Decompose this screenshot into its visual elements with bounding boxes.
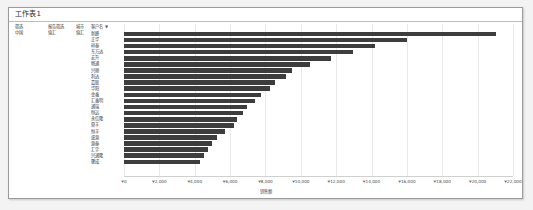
x-axis-tick-label: ¥6,000 — [223, 178, 238, 186]
bar-track — [124, 135, 513, 140]
bar[interactable] — [124, 32, 496, 37]
pivot-filter-2[interactable]: 城市 值汇 — [76, 24, 84, 35]
bar-track — [124, 153, 513, 158]
bar[interactable] — [124, 62, 310, 67]
page-title: 工作表1 — [15, 9, 41, 20]
pivot-filter-1-value[interactable]: 值汇 — [48, 30, 64, 36]
bar-track — [124, 105, 513, 110]
pivot-filter-1[interactable]: 报告筛选 值汇 — [48, 24, 64, 35]
worksheet-frame: 工作表1 筛选 中国 报告筛选 值汇 城市 值汇 客户名▼ 新峰正华祥泰东方达宏… — [8, 7, 523, 199]
bar-track — [124, 86, 513, 91]
bar-track — [124, 141, 513, 146]
bar-track — [124, 99, 513, 104]
bar-track — [124, 147, 513, 152]
x-axis-tick-label: ¥8,000 — [258, 178, 273, 186]
x-axis-title: 销售额 — [9, 188, 522, 195]
pivot-filter-0-label: 筛选 — [15, 24, 23, 30]
x-axis-tick-label: ¥18,000 — [434, 178, 451, 186]
bar[interactable] — [124, 50, 353, 55]
bar-rows: 新峰正华祥泰东方达宏升畅通兴顺利达嘉联华阳金鑫汇鑫明通瑞恒远永信隆鼎丰恒丰盛源源… — [91, 31, 516, 176]
bar[interactable] — [124, 129, 225, 134]
bar[interactable] — [124, 123, 234, 128]
x-axis-tick-label: ¥2,000 — [152, 178, 167, 186]
bar[interactable] — [124, 56, 331, 61]
bar[interactable] — [124, 74, 286, 79]
bar[interactable] — [124, 80, 275, 85]
pivot-filter-2-label: 城市 — [76, 24, 84, 30]
bar[interactable] — [124, 44, 375, 49]
bar[interactable] — [124, 135, 217, 140]
bar[interactable] — [124, 105, 247, 110]
bar-track — [124, 44, 513, 49]
bar-row: 聚成 — [91, 159, 516, 165]
bar-track — [124, 117, 513, 122]
bar[interactable] — [124, 99, 255, 104]
bar[interactable] — [124, 38, 407, 43]
bar-track — [124, 68, 513, 73]
worksheet-title-bar: 工作表1 — [9, 8, 522, 22]
category-field-header[interactable]: 客户名▼ — [91, 24, 108, 30]
bar[interactable] — [124, 153, 204, 158]
x-axis-tick-label: ¥12,000 — [328, 178, 345, 186]
pivot-filter-2-value[interactable]: 值汇 — [76, 30, 84, 36]
bar-track — [124, 129, 513, 134]
bar-track — [124, 56, 513, 61]
chevron-down-icon[interactable]: ▼ — [105, 24, 108, 30]
bar[interactable] — [124, 86, 270, 91]
pivot-filter-0[interactable]: 筛选 中国 — [15, 24, 23, 35]
bar[interactable] — [124, 93, 261, 98]
bar-track — [124, 111, 513, 116]
bar[interactable] — [124, 68, 292, 73]
pivot-filter-0-value[interactable]: 中国 — [15, 30, 23, 36]
x-axis-tick-label: ¥22,000 — [504, 178, 521, 186]
pivot-filter-1-label: 报告筛选 — [48, 24, 64, 30]
bar-track — [124, 38, 513, 43]
x-axis-tick-label: ¥0 — [121, 178, 126, 186]
bar-track — [124, 93, 513, 98]
bar-track — [124, 32, 513, 37]
bar[interactable] — [124, 160, 200, 165]
x-axis-tick-label: ¥10,000 — [292, 178, 309, 186]
bar-track — [124, 74, 513, 79]
bar[interactable] — [124, 147, 208, 152]
bar-track — [124, 62, 513, 67]
bar-track — [124, 160, 513, 165]
x-axis-tick-label: ¥14,000 — [363, 178, 380, 186]
bar-track — [124, 50, 513, 55]
bar-track — [124, 80, 513, 85]
bar[interactable] — [124, 111, 243, 116]
bar-category-label: 聚成 — [91, 159, 121, 165]
category-field-label: 客户名 — [91, 24, 103, 29]
x-axis-tick-label: ¥16,000 — [398, 178, 415, 186]
chart-plot-area: 客户名▼ 新峰正华祥泰东方达宏升畅通兴顺利达嘉联华阳金鑫汇鑫明通瑞恒远永信隆鼎丰… — [91, 24, 516, 189]
bar[interactable] — [124, 141, 212, 146]
screenshot-root: 工作表1 筛选 中国 报告筛选 值汇 城市 值汇 客户名▼ 新峰正华祥泰东方达宏… — [0, 0, 533, 210]
bar-track — [124, 123, 513, 128]
bar[interactable] — [124, 117, 237, 122]
x-axis-ticks: ¥0¥2,000¥4,000¥6,000¥8,000¥10,000¥12,000… — [124, 178, 513, 187]
x-axis-tick-label: ¥20,000 — [469, 178, 486, 186]
x-axis-tick-label: ¥4,000 — [187, 178, 202, 186]
